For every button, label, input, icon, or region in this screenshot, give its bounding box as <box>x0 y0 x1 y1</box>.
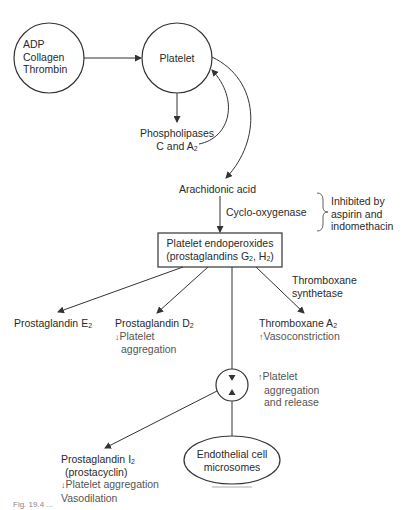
prostaglandin-e2-label: Prostaglandin E2 <box>14 317 92 330</box>
inhibition-line1: Inhibited by <box>331 195 393 208</box>
thromboxane-a2-label: Thromboxane A2 ↑Vasoconstriction <box>259 317 340 343</box>
prostacyclin-alias: (prostacyclin) <box>61 466 159 479</box>
thromboxane-a2-effect: ↑Vasoconstriction <box>259 330 340 344</box>
endothelial-label: Endothelial cell microsomes <box>184 448 280 473</box>
prostaglandin-i2-effect2: Vasodilation <box>61 492 159 505</box>
endothelial-line2: microsomes <box>184 461 280 474</box>
stimuli-label: ADP Collagen Thrombin <box>23 38 67 76</box>
platelet-aggregation-release-label: ↑Platelet aggregation and release <box>258 370 319 409</box>
inhibition-line3: indomethacin <box>331 220 393 233</box>
phospholipases-label: Phospholipases C and A2 <box>130 127 224 152</box>
prostaglandin-d2-effect: ↓Platelet <box>115 330 194 344</box>
stimulus-thrombin: Thrombin <box>23 63 67 76</box>
prostaglandin-i2-effect1: ↓Platelet aggregation <box>61 478 159 492</box>
figure-caption: Fig. 19.4 ... <box>13 500 53 509</box>
thromboxane-synthetase-label: Thromboxane synthetase <box>292 274 357 299</box>
synthetase-line2: synthetase <box>292 287 357 300</box>
aggregation-release-line1: ↑Platelet <box>258 370 319 384</box>
junction-circle <box>216 369 248 401</box>
prostaglandin-d2-effect-line2: aggregation <box>115 343 194 356</box>
endoperoxides-line2: (prostaglandins G2, H2) <box>158 250 282 263</box>
prostaglandin-d2-title: Prostaglandin D2 <box>115 317 194 330</box>
endoperoxides-label: Platelet endoperoxides (prostaglandins G… <box>158 237 282 262</box>
endothelial-line1: Endothelial cell <box>184 448 280 461</box>
aggregation-release-line2: aggregation <box>258 384 319 397</box>
inhibition-note: Inhibited by aspirin and indomethacin <box>331 195 393 233</box>
endoperoxides-line1: Platelet endoperoxides <box>158 237 282 250</box>
prostaglandin-i2-label: Prostaglandin I2 (prostacyclin) ↓Platele… <box>61 453 159 504</box>
phospholipases-line2: C and A2 <box>130 140 224 153</box>
platelet-label: Platelet <box>142 52 212 65</box>
cyclo-oxygenase-label: Cyclo-oxygenase <box>226 206 307 219</box>
prostaglandin-d2-label: Prostaglandin D2 ↓Platelet aggregation <box>115 317 194 356</box>
phospholipases-line1: Phospholipases <box>130 127 224 140</box>
stimulus-collagen: Collagen <box>23 51 67 64</box>
prostaglandin-i2-title: Prostaglandin I2 <box>61 453 159 466</box>
arachidonic-acid-label: Arachidonic acid <box>179 183 256 196</box>
aggregation-release-line3: and release <box>258 396 319 409</box>
thromboxane-a2-title: Thromboxane A2 <box>259 317 340 330</box>
synthetase-line1: Thromboxane <box>292 274 357 287</box>
stimulus-adp: ADP <box>23 38 67 51</box>
inhibition-line2: aspirin and <box>331 208 393 221</box>
